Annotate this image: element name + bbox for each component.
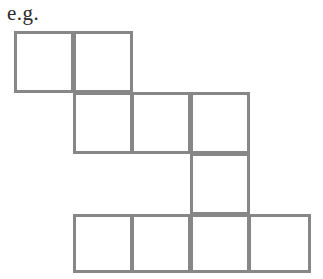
net-cell [190, 92, 250, 154]
net-cell [73, 31, 133, 93]
net-cell [190, 153, 250, 215]
net-cell [190, 214, 250, 273]
figure-canvas: e.g. [0, 0, 323, 279]
net-cell [14, 31, 74, 93]
net-cell [73, 92, 133, 154]
net-cell [248, 214, 311, 273]
net-cell [131, 214, 191, 273]
net-cell [73, 214, 133, 273]
polyomino-net [0, 0, 323, 279]
net-cell [131, 92, 191, 154]
